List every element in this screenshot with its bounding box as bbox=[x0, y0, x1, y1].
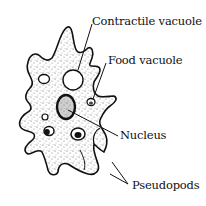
label-pseudopods: Pseudopods bbox=[132, 180, 199, 192]
amoeba-body bbox=[0, 0, 206, 206]
small-vacuole bbox=[39, 75, 50, 84]
food-vacuole bbox=[71, 128, 85, 140]
label-contractile-vacuole: Contractile vacuole bbox=[92, 16, 202, 28]
food-vacuole bbox=[44, 127, 54, 136]
contractile-vacuole bbox=[63, 70, 83, 90]
amoeba-diagram: Contractile vacuole Food vacuole Nucleus… bbox=[0, 0, 206, 206]
food-vacuole bbox=[87, 99, 95, 106]
label-food-vacuole: Food vacuole bbox=[108, 55, 182, 67]
amoeba-illustration bbox=[0, 0, 206, 206]
small-vacuole bbox=[42, 114, 48, 120]
nucleus bbox=[57, 95, 75, 119]
label-nucleus: Nucleus bbox=[120, 130, 166, 142]
